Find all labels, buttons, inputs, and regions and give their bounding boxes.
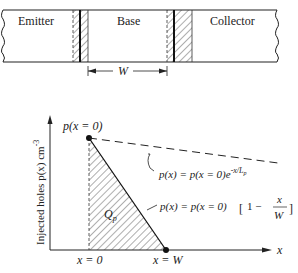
exp-equation: p(x) = p(x = 0)e-x/Lp (158, 166, 247, 181)
emitter-label: Emitter (18, 14, 54, 28)
linear-equation: p(x) = p(x = 0) (159, 200, 227, 213)
linear-bracket: 1 − (247, 200, 261, 212)
peak-label: p(x = 0) (62, 119, 102, 133)
fraction-num: x (276, 193, 282, 205)
width-label: W (118, 64, 129, 78)
bracket-right: ] (289, 202, 293, 216)
fraction-den: W (274, 209, 284, 221)
x0-label: x = 0 (76, 253, 102, 267)
xw-label: x = W (152, 253, 183, 267)
base-label: Base (117, 14, 140, 28)
collector-label: Collector (210, 14, 255, 28)
y-axis-arrow-icon (48, 115, 53, 124)
bc-depletion (167, 10, 192, 62)
bracket-left: [ (239, 202, 243, 216)
exponential-profile (89, 138, 278, 163)
plot-axes (48, 115, 273, 253)
x-axis-arrow-icon (262, 248, 272, 253)
diagram: Emitter Base Collector W Injected holes … (0, 0, 298, 273)
y-axis-label: Injected holes p(x) cm-3 (32, 140, 47, 245)
x-axis-label: x (276, 243, 283, 257)
